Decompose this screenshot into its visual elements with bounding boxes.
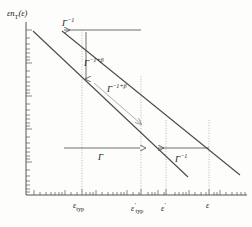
gamma-symbol: Γ [98,152,103,162]
annotation-gamma-beta-lower: Γ−1+β [107,83,127,94]
y-axis-title-prefix: εn [7,8,15,18]
x-tick-label-eps-typ-prime: ε′typ [131,202,143,214]
x-tick-label-eps-prime: ε′ [161,202,166,213]
x-axis-ticks [34,189,245,195]
annotation-gamma-middle: Γ [98,153,103,162]
tick-subscript: typ [76,205,84,212]
annotation-gamma-beta-upper: Γ−1+β [84,57,104,68]
vertical-guides [82,30,209,195]
tick-subscript: typ [136,207,144,214]
gamma-exponent: −1 [67,16,74,23]
figure-canvas: εnT(ε) εtyp ε′typ ε′ ε Γ−1 Γ−1+β Γ−1+β Γ… [0,0,252,227]
y-axis-title: εnT(ε) [7,9,27,20]
y-axis-title-suffix: (ε) [18,8,27,18]
gamma-exponent: −1+β [89,56,104,63]
x-tick-label-eps-typ: εtyp [73,202,84,212]
plot-svg [0,0,252,227]
annotation-arrows [64,30,209,148]
x-tick-label-eps: ε [206,202,209,210]
annotation-gamma-inverse-right: Γ−1 [175,153,187,164]
gamma-exponent: −1+β [112,82,127,89]
upper-line [62,31,240,175]
y-axis-ticks [26,30,32,192]
tick-base: ε [206,201,209,210]
data-lines [33,31,240,177]
lower-line [33,31,188,177]
tick-prime: ′ [164,201,165,208]
axis-lines [26,22,247,195]
gamma-exponent: −1 [180,152,187,159]
annotation-gamma-inverse-top: Γ−1 [62,17,74,28]
